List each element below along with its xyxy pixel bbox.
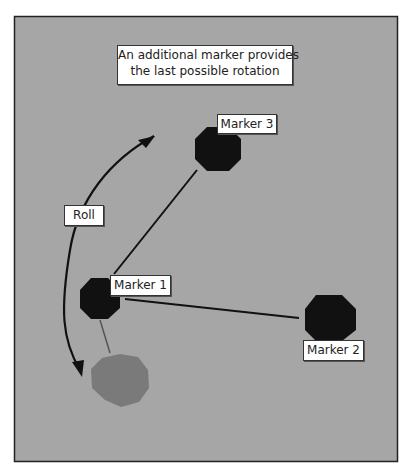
marker-1-label: Marker 1	[110, 275, 171, 296]
caption-line-1: An additional marker provides	[118, 47, 292, 63]
marker-2-shape	[305, 295, 356, 341]
caption-line-2: the last possible rotation	[118, 63, 292, 79]
marker-2-label: Marker 2	[303, 340, 364, 361]
marker-3-label: Marker 3	[217, 114, 277, 134]
diagram: An additional marker provides the last p…	[0, 0, 408, 472]
roll-label: Roll	[64, 205, 104, 226]
caption-box: An additional marker provides the last p…	[117, 45, 293, 85]
